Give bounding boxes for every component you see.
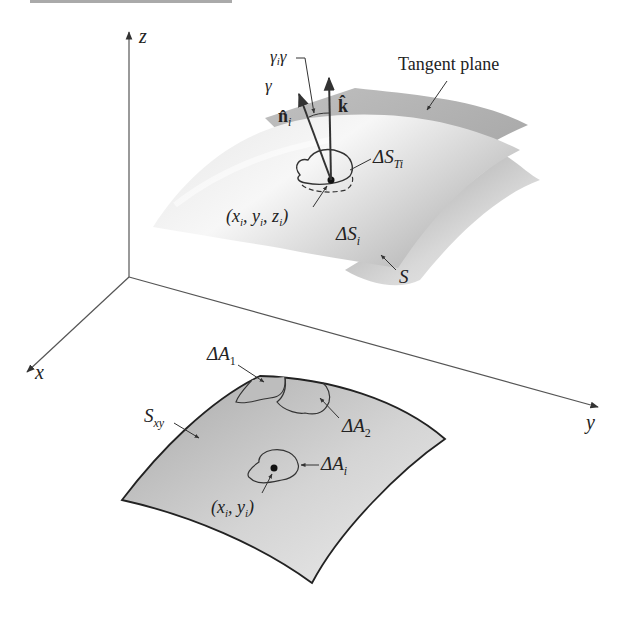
x-axis-label: x bbox=[34, 361, 44, 383]
region-Sxy bbox=[122, 376, 445, 583]
delta-A1-label: ΔA1 bbox=[206, 343, 236, 368]
point-xy-label: (xi, yi) bbox=[211, 497, 254, 519]
y-axis bbox=[129, 277, 598, 407]
surface-projection-diagram: z x y γiγ γ n̂i k̂ Tangent plane ΔSTi bbox=[0, 0, 626, 621]
gamma-i-gamma-label: γiγ bbox=[270, 47, 288, 67]
S-label: S bbox=[399, 266, 409, 287]
point-xyz-label: (xi, yi, zi) bbox=[226, 206, 288, 228]
surface-S bbox=[153, 88, 540, 285]
point-xy-marker bbox=[271, 465, 278, 472]
k-hat-label: k̂ bbox=[338, 95, 348, 116]
n-hat-label: n̂i bbox=[278, 106, 291, 129]
delta-A1-leader bbox=[238, 365, 264, 382]
z-axis-label: z bbox=[138, 25, 147, 47]
x-axis bbox=[27, 277, 129, 372]
Sxy-label: Sxy bbox=[144, 405, 165, 430]
y-axis-label: y bbox=[584, 411, 595, 434]
gamma-label: γ bbox=[265, 76, 273, 95]
tangent-plane-label: Tangent plane bbox=[398, 54, 499, 74]
